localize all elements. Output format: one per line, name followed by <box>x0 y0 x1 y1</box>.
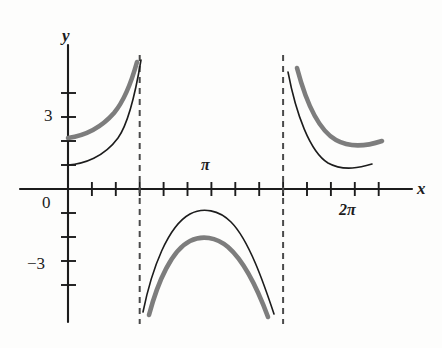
thick-curve-branch-right <box>297 68 382 145</box>
thick-curve-branch-left <box>68 62 137 138</box>
thin-curve <box>68 60 372 314</box>
y-tick-label-0: 0 <box>42 194 51 211</box>
trigonometric-graph-figure: y x 3 0 −3 π 2π <box>0 0 442 348</box>
thin-curve-branch-middle <box>143 210 274 314</box>
thin-curve-branch-left <box>68 60 141 165</box>
y-tick-label-minus-3: −3 <box>27 255 45 272</box>
x-axis-label: x <box>417 180 426 197</box>
x-tick-label-2pi: 2π <box>339 202 356 218</box>
x-tick-label-pi: π <box>201 157 210 173</box>
y-tick-label-3: 3 <box>44 107 53 124</box>
plot-canvas <box>0 0 442 348</box>
y-axis-label: y <box>62 27 70 44</box>
thick-curve-branch-middle <box>149 238 268 317</box>
